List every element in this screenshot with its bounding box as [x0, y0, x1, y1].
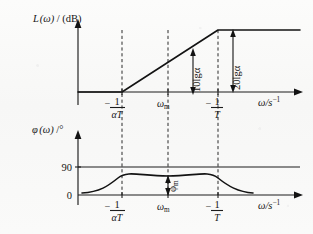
phase-y-axis-arrowhead [75, 130, 82, 139]
magnitude-y-axis-label-unit: / (dB) [57, 13, 82, 25]
phase-ticklabel-one-over-T-sign: − [205, 201, 212, 212]
magnitude-ticklabel-one-over-T-numerator: 1 [214, 96, 219, 107]
phase-ticklabel-one-over-T-denominator: T [214, 212, 221, 223]
magnitude-asymptote-curve [78, 30, 300, 92]
bode-plot-figure: L(ω)/ (dB) ω/s−1 − 1 αT ωm − 1 [0, 0, 313, 234]
phase-ticklabel-omega-m-sub: m [164, 206, 170, 214]
phase-x-axis-label-exp: −1 [272, 199, 280, 207]
magnitude-x-axis-label-main: ω/s [258, 97, 272, 108]
magnitude-y-axis-label-arg: (ω) [40, 13, 55, 25]
phase-ticklabel-one-over-T-numerator: 1 [214, 199, 219, 210]
dashed-guides [122, 30, 218, 195]
annotation-10lg-alpha-arrowhead-top [190, 48, 196, 56]
phase-y-axis-label: φ(ω)/° [32, 124, 63, 136]
annotation-phi-m-label-sub: m [172, 180, 180, 186]
magnitude-y-axis-label-main: L [32, 13, 39, 24]
phase-ytick-label-90: 90 [62, 162, 73, 173]
annotation-20lg-alpha: 20lgα [230, 29, 242, 93]
magnitude-ticklabel-one-over-T: − 1 T [205, 96, 223, 120]
magnitude-ticklabel-omega-m-main: ω [157, 98, 164, 109]
phase-ticklabel-omega-m: ωm [157, 201, 170, 214]
phase-ticklabel-alpha-T: − 1 αT [104, 199, 125, 223]
phase-y-axis-label-unit: /° [56, 124, 63, 135]
annotation-10lg-alpha-label: 10lgα [191, 67, 202, 92]
phase-ticklabel-alpha-T-denominator: αT [112, 212, 124, 223]
phase-x-axis-label-main: ω/s [258, 200, 272, 211]
phase-plot: φ(ω)/° 90 0 ω/s−1 − 1 αT ωm − [32, 124, 303, 223]
phase-ticklabel-omega-m-main: ω [157, 201, 164, 212]
magnitude-x-axis-arrowhead [294, 89, 303, 96]
magnitude-y-axis-label: L(ω)/ (dB) [32, 13, 82, 25]
annotation-10lg-alpha: 10lgα [190, 48, 202, 95]
phase-x-axis-label: ω/s−1 [258, 199, 280, 211]
phase-x-axis-arrowhead [294, 192, 303, 199]
phase-ticklabel-alpha-T-sign: − [104, 201, 111, 212]
figure-canvas: L(ω)/ (dB) ω/s−1 − 1 αT ωm − 1 [0, 0, 313, 234]
annotation-phi-m: φm [165, 175, 180, 196]
annotation-20lg-alpha-label: 20lgα [231, 65, 242, 90]
magnitude-ticklabel-one-over-T-denominator: T [214, 109, 221, 120]
magnitude-ticklabel-one-over-T-sign: − [205, 98, 212, 109]
phase-y-axis-label-arg: (ω) [39, 124, 54, 136]
magnitude-x-axis-label-exp: −1 [272, 96, 280, 104]
magnitude-ticklabel-alpha-T-denominator: αT [112, 109, 124, 120]
phase-ticklabel-alpha-T-numerator: 1 [114, 199, 119, 210]
magnitude-ticklabel-alpha-T-numerator: 1 [114, 96, 119, 107]
magnitude-ticklabel-alpha-T-sign: − [104, 98, 111, 109]
phase-ticklabel-one-over-T: − 1 T [205, 199, 223, 223]
phase-ytick-label-0: 0 [67, 190, 72, 201]
phase-y-axis-label-main: φ [32, 124, 38, 135]
magnitude-x-axis-label: ω/s−1 [258, 96, 280, 108]
magnitude-ticklabel-omega-m-sub: m [164, 103, 170, 111]
